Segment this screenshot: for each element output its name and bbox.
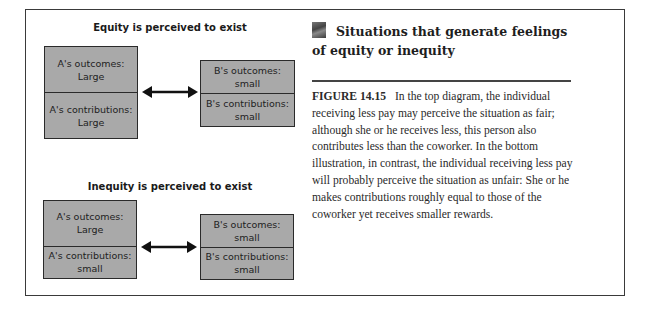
bottom-b-outcomes-value: small (234, 231, 259, 244)
top-box-a: A's outcomes: Large A's contributions: L… (44, 46, 138, 139)
bottom-b-contributions-label: B's contributions: (206, 250, 289, 263)
bottom-a-contributions: A's contributions: small (44, 246, 136, 278)
double-arrow-icon (141, 241, 197, 253)
top-a-outcomes-label: A's outcomes: (58, 57, 125, 70)
bottom-a-outcomes: A's outcomes: Large (44, 201, 136, 246)
bottom-box-b: B's outcomes: small B's contributions: s… (200, 214, 294, 280)
top-a-contributions-value: Large (78, 116, 105, 129)
top-a-outcomes-value: Large (78, 70, 105, 83)
bottom-b-outcomes: B's outcomes: small (201, 215, 293, 247)
bottom-b-outcomes-label: B's outcomes: (214, 218, 281, 231)
bottom-a-outcomes-value: Large (77, 223, 104, 236)
top-a-contributions: A's contributions: Large (45, 92, 137, 138)
figure-heading: Situations that generate feelings of equ… (312, 22, 577, 60)
photo-thumbnail-icon (312, 22, 326, 38)
top-diagram-title: Equity is perceived to exist (40, 22, 300, 33)
top-b-outcomes: B's outcomes: small (201, 61, 294, 93)
bottom-box-a: A's outcomes: Large A's contributions: s… (43, 200, 137, 279)
heading-rule (312, 80, 571, 82)
figure-label: FIGURE 14.15 (312, 90, 386, 103)
top-box-b: B's outcomes: small B's contributions: s… (200, 60, 295, 127)
bottom-a-contributions-label: A's contributions: (49, 249, 132, 262)
caption-text: In the top diagram, the individual recei… (312, 90, 572, 221)
top-b-contributions: B's contributions: small (201, 93, 294, 126)
bottom-a-contributions-value: small (77, 262, 102, 275)
figure-caption: FIGURE 14.15 In the top diagram, the ind… (312, 89, 580, 223)
top-b-outcomes-value: small (235, 77, 260, 90)
double-arrow-icon (142, 86, 198, 98)
bottom-b-contributions-value: small (234, 263, 259, 276)
bottom-b-contributions: B's contributions: small (201, 247, 293, 280)
figure-heading-text: Situations that generate feelings of equ… (312, 24, 567, 58)
bottom-diagram-title: Inequity is perceived to exist (40, 181, 300, 192)
top-b-contributions-label: B's contributions: (206, 97, 289, 110)
top-b-outcomes-label: B's outcomes: (214, 64, 281, 77)
bottom-a-outcomes-label: A's outcomes: (57, 210, 124, 223)
top-a-contributions-label: A's contributions: (50, 103, 133, 116)
top-b-contributions-value: small (235, 110, 260, 123)
top-a-outcomes: A's outcomes: Large (45, 47, 137, 92)
